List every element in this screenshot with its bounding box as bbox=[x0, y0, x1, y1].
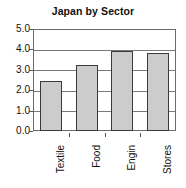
x-tick-label: Engin bbox=[127, 145, 137, 171]
x-axis: TextileFoodEnginStores bbox=[33, 133, 176, 188]
x-tick-label: Textile bbox=[56, 145, 66, 173]
bar-stores bbox=[147, 53, 169, 131]
bar-food bbox=[76, 65, 98, 131]
bar-textile bbox=[40, 81, 62, 131]
x-tick-label: Stores bbox=[163, 145, 173, 174]
y-tick-label: 3.0 bbox=[4, 65, 30, 75]
bar-chart: Japan by Sector 5.04.03.02.01.00.0 Texti… bbox=[0, 0, 186, 188]
x-tick-mark bbox=[69, 133, 70, 137]
x-tick-mark bbox=[140, 133, 141, 137]
bar-engin bbox=[111, 51, 133, 131]
x-tick-mark bbox=[105, 133, 106, 137]
y-tick-mark bbox=[29, 131, 33, 132]
y-tick-label: 1.0 bbox=[4, 106, 30, 116]
y-tick-label: 2.0 bbox=[4, 85, 30, 95]
x-tick-label: Food bbox=[92, 145, 102, 168]
y-tick-label: 5.0 bbox=[4, 24, 30, 34]
bars-layer bbox=[33, 29, 176, 131]
y-tick-label: 4.0 bbox=[4, 44, 30, 54]
y-tick-label: 0.0 bbox=[4, 126, 30, 136]
y-axis: 5.04.03.02.01.00.0 bbox=[0, 0, 30, 188]
